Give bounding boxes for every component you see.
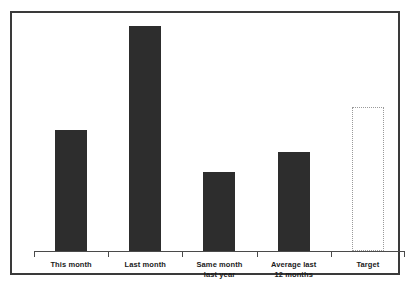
axis-label-target: Target — [331, 259, 405, 285]
category-axis-line — [34, 251, 405, 252]
bar-this-month — [55, 130, 87, 252]
chart-border-frame: This month Last month Same month last ye… — [10, 11, 400, 275]
bar-slot-average-last-12-months — [257, 26, 331, 251]
axis-tick-4 — [331, 251, 332, 257]
axis-tick-3 — [257, 251, 258, 257]
axis-label-last-month: Last month — [108, 259, 182, 285]
bar-chart-figure: This month Last month Same month last ye… — [0, 0, 413, 292]
bar-target — [352, 107, 384, 251]
category-axis-labels: This month Last month Same month last ye… — [34, 259, 405, 285]
axis-tick-0 — [34, 251, 35, 257]
bar-slot-last-month — [108, 26, 182, 251]
axis-tick-5 — [404, 251, 405, 257]
bar-average-last-12-months — [278, 152, 310, 251]
axis-tick-2 — [182, 251, 183, 257]
bar-slot-target — [331, 26, 405, 251]
axis-label-this-month: This month — [34, 259, 108, 285]
bar-slot-this-month — [34, 26, 108, 251]
axis-label-average-last-12-months: Average last 12 months — [257, 259, 331, 285]
plot-area — [34, 26, 405, 251]
bar-slot-same-month-last-year — [182, 26, 256, 251]
axis-label-same-month-last-year: Same month last year — [182, 259, 256, 285]
bar-last-month — [129, 26, 161, 251]
bar-same-month-last-year — [203, 172, 235, 251]
axis-tick-1 — [108, 251, 109, 257]
